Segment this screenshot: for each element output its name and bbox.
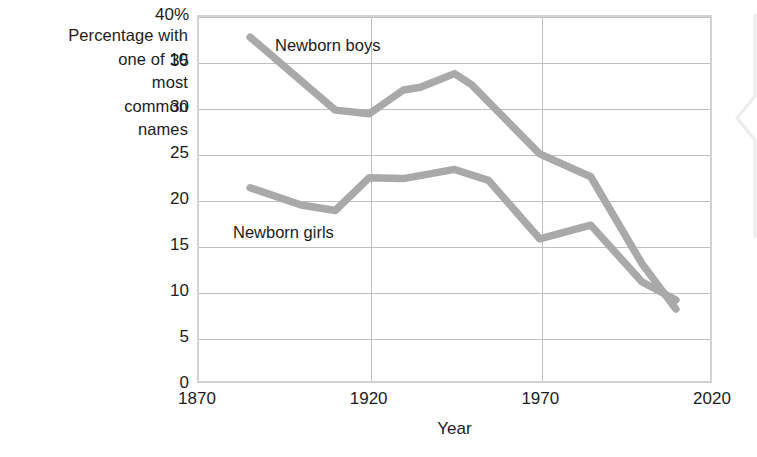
x-axis-tick-labels: 1870192019702020 — [0, 389, 757, 415]
y-tick-label: 35 — [133, 51, 189, 71]
y-tick-label: 40% — [133, 5, 189, 25]
plot-area: Newborn boys Newborn girls — [197, 15, 712, 383]
series-annotations: Newborn boys Newborn girls — [199, 17, 710, 381]
page-edge-artifact — [735, 10, 757, 242]
y-tick-label: 10 — [133, 281, 189, 301]
series-label-newborn-boys: Newborn boys — [275, 36, 380, 55]
y-tick-label: 20 — [133, 189, 189, 209]
x-tick-label: 1920 — [350, 389, 388, 409]
x-tick-label: 2020 — [693, 389, 731, 409]
x-axis-title: Year — [197, 419, 712, 439]
series-label-newborn-girls: Newborn girls — [233, 223, 334, 242]
y-tick-label: 25 — [133, 143, 189, 163]
x-tick-label: 1870 — [178, 389, 216, 409]
y-tick-label: 5 — [133, 327, 189, 347]
chart-page: Percentage with one of 10 most common na… — [0, 0, 757, 457]
y-tick-label: 15 — [133, 235, 189, 255]
y-tick-label: 30 — [133, 97, 189, 117]
x-tick-label: 1970 — [521, 389, 559, 409]
